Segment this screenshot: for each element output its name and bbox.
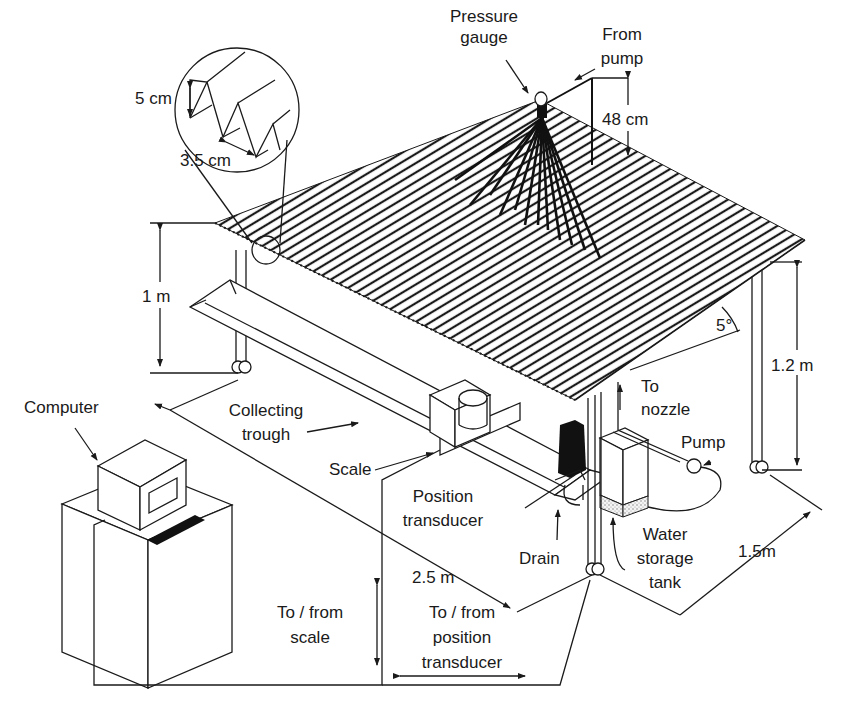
label-drain: Drain [519, 549, 560, 568]
label-from-pump-1: From [602, 25, 642, 44]
label-to-nozzle-1: To [641, 377, 659, 396]
label-water-storage-tank-2: storage [637, 549, 694, 568]
label-from-pump-2: pump [601, 49, 644, 68]
label-to-from-scale-2: scale [290, 628, 330, 647]
label-computer: Computer [24, 398, 99, 417]
label-high-side-height: 1.2 m [771, 356, 814, 375]
label-collecting-trough-2: trough [242, 425, 290, 444]
rainfall-simulator-diagram: Pressure gauge From pump 48 cm 5 cm 3.5 … [0, 0, 851, 711]
label-pressure-gauge-2: gauge [460, 28, 507, 47]
label-pump: Pump [681, 433, 725, 452]
label-corrugation-pitch: 3.5 cm [180, 151, 231, 170]
label-corrugation-height: 5 cm [135, 89, 172, 108]
label-collecting-trough-1: Collecting [229, 401, 304, 420]
position-transducer [555, 420, 586, 480]
label-low-side-height: 1 m [142, 287, 170, 306]
pressure-gauge [535, 92, 547, 106]
label-position-transducer-2: transducer [403, 511, 484, 530]
label-pressure-gauge-1: Pressure [450, 7, 518, 26]
label-to-nozzle-2: nozzle [641, 400, 690, 419]
computer [62, 440, 232, 688]
label-water-storage-tank-3: tank [649, 573, 682, 592]
label-to-from-position-transducer-3: transducer [422, 653, 503, 672]
water-storage-tank [600, 428, 648, 517]
label-nozzle-height: 48 cm [602, 110, 648, 129]
label-to-from-scale-1: To / from [277, 603, 343, 622]
label-position-transducer-1: Position [413, 487, 473, 506]
label-to-from-position-transducer-1: To / from [429, 603, 495, 622]
label-to-from-position-transducer-2: position [433, 628, 492, 647]
label-slope-angle: 5° [716, 316, 732, 335]
label-scale: Scale [329, 460, 372, 479]
label-length: 2.5 m [412, 568, 455, 587]
leg-back-right [750, 270, 768, 473]
label-width: 1.5m [738, 542, 776, 561]
label-water-storage-tank-1: Water [643, 525, 688, 544]
